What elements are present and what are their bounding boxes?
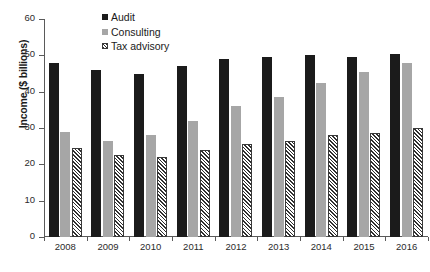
- legend-swatch-icon: [102, 14, 108, 20]
- chart-legend: AuditConsultingTax advisory: [102, 10, 169, 54]
- x-axis-label: 2012: [215, 241, 258, 252]
- bar-consulting: [231, 106, 241, 237]
- bar-group: [300, 19, 343, 237]
- x-axis-label: 2016: [385, 241, 428, 252]
- bar-audit: [49, 63, 59, 237]
- bar-tax-advisory: [72, 148, 82, 237]
- bar-consulting: [274, 97, 284, 237]
- bar-audit: [134, 74, 144, 238]
- bar-tax-advisory: [114, 155, 124, 237]
- bar-consulting: [146, 135, 156, 237]
- bar-tax-advisory: [370, 133, 380, 237]
- bar-audit: [91, 70, 101, 237]
- bar-tax-advisory: [242, 144, 252, 237]
- bar-consulting: [359, 72, 369, 237]
- legend-label: Audit: [111, 10, 135, 25]
- y-axis-tick-label: 10: [24, 194, 35, 205]
- bar-audit: [262, 57, 272, 237]
- y-axis-tick-label: 20: [24, 157, 35, 168]
- y-axis-tick-label: 60: [24, 12, 35, 23]
- y-axis-tick-label: 30: [24, 121, 35, 132]
- y-axis-tick-label: 40: [24, 85, 35, 96]
- bar-group: [215, 19, 258, 237]
- bar-audit: [177, 66, 187, 237]
- bar-tax-advisory: [157, 157, 167, 237]
- bar-group: [44, 19, 87, 237]
- bar-group: [385, 19, 428, 237]
- x-axis-label: 2011: [172, 241, 215, 252]
- bar-tax-advisory: [200, 150, 210, 237]
- bar-audit: [219, 59, 229, 237]
- bar-tax-advisory: [413, 128, 423, 237]
- bar-chart: Income ($ billions) 0102030405060 200820…: [0, 0, 430, 272]
- bar-tax-advisory: [328, 135, 338, 237]
- bar-tax-advisory: [285, 141, 295, 237]
- bar-consulting: [103, 141, 113, 237]
- bar-group: [257, 19, 300, 237]
- bar-consulting: [188, 121, 198, 237]
- x-axis-label: 2009: [87, 241, 130, 252]
- legend-swatch-icon: [102, 43, 108, 49]
- y-axis-tick-label: 50: [24, 48, 35, 59]
- bar-audit: [390, 54, 400, 237]
- x-axis-label: 2013: [257, 241, 300, 252]
- legend-label: Tax advisory: [111, 39, 169, 54]
- x-axis-label: 2008: [44, 241, 87, 252]
- legend-label: Consulting: [111, 25, 161, 40]
- bar-consulting: [316, 83, 326, 237]
- bar-consulting: [60, 132, 70, 237]
- bar-audit: [305, 55, 315, 237]
- legend-swatch-icon: [102, 29, 108, 35]
- x-axis-label: 2014: [300, 241, 343, 252]
- x-axis-label: 2010: [129, 241, 172, 252]
- bar-group: [343, 19, 386, 237]
- y-axis-tick-label: 0: [30, 230, 35, 241]
- bar-group: [172, 19, 215, 237]
- legend-item-tax-advisory: Tax advisory: [102, 39, 169, 54]
- x-axis-tick: [428, 237, 429, 241]
- bar-audit: [347, 57, 357, 237]
- bar-consulting: [402, 63, 412, 237]
- x-axis-label: 2015: [343, 241, 386, 252]
- legend-item-consulting: Consulting: [102, 25, 169, 40]
- legend-item-audit: Audit: [102, 10, 169, 25]
